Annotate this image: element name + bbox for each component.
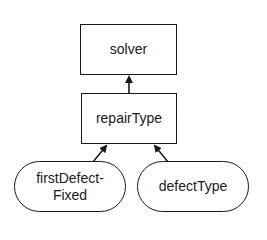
- node-repairtype-label: repairType: [96, 110, 162, 127]
- node-defecttype-label: defectType: [159, 178, 228, 195]
- node-solver-label: solver: [110, 41, 147, 58]
- node-repairtype: repairType: [81, 93, 177, 144]
- node-firstdefectfixed: firstDefect- Fixed: [14, 161, 126, 212]
- node-firstdefectfixed-label-line2: Fixed: [53, 187, 87, 204]
- edge-defecttype-to-repairtype: [155, 146, 168, 162]
- edge-firstdefectfixed-to-repairtype: [93, 146, 106, 162]
- node-solver: solver: [80, 24, 177, 75]
- node-firstdefectfixed-label-line1: firstDefect-: [36, 170, 104, 187]
- node-defecttype: defectType: [137, 161, 249, 212]
